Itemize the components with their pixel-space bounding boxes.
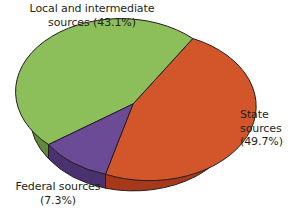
slice-label-state: State sources (49.7%) (240, 108, 297, 149)
pie-chart-figure: Local and intermediate sources (43.1%) S… (0, 0, 297, 219)
slice-label-federal: Federal sources (7.3%) (2, 180, 114, 207)
slice-label-local: Local and intermediate sources (43.1%) (8, 2, 176, 29)
